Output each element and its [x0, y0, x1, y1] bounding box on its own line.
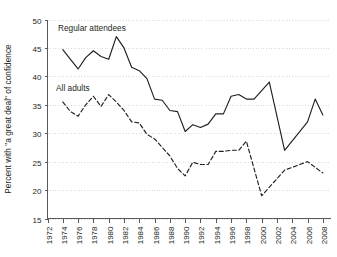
- y-tick-label: 20: [33, 187, 42, 196]
- x-tick-label: 1972: [45, 226, 54, 244]
- x-tick-label: 2004: [289, 226, 298, 244]
- series-line-regular-attendees: [63, 37, 323, 151]
- chart-container: 1520253035404550 19721974197619781980198…: [0, 0, 337, 257]
- y-tick-label: 25: [33, 159, 42, 168]
- y-axis-tick-labels: 1520253035404550: [33, 17, 42, 225]
- x-tick-label: 1988: [167, 226, 176, 244]
- y-tick-label: 45: [33, 45, 42, 54]
- x-tick-label: 1998: [243, 226, 252, 244]
- x-tick-label: 2002: [274, 226, 283, 244]
- series-label-all-adults: All adults: [56, 83, 90, 93]
- gridlines: [48, 21, 331, 220]
- x-tick-label: 1996: [228, 226, 237, 244]
- y-tick-label: 35: [33, 102, 42, 111]
- x-tick-label: 1992: [197, 226, 206, 244]
- x-tick-label: 1986: [152, 226, 161, 244]
- series-label-regular-attendees: Regular attendees: [58, 23, 126, 33]
- x-tick-label: 1974: [60, 226, 69, 244]
- x-tick-label: 1990: [182, 226, 191, 244]
- x-tick-label: 1982: [121, 226, 130, 244]
- y-tick-label: 40: [33, 73, 42, 82]
- line-chart: 1520253035404550 19721974197619781980198…: [0, 0, 337, 257]
- x-tick-label: 2000: [259, 226, 268, 244]
- y-axis-title: Percent with "a great deal" of confidenc…: [3, 44, 13, 194]
- x-tick-label: 1984: [136, 226, 145, 244]
- data-series: [63, 37, 323, 196]
- x-tick-label: 1994: [213, 226, 222, 244]
- x-tick-label: 1980: [106, 226, 115, 244]
- x-tick-label: 1976: [75, 226, 84, 244]
- y-tick-label: 15: [33, 216, 42, 225]
- y-tick-label: 50: [33, 17, 42, 26]
- x-tick-label: 1978: [90, 226, 99, 244]
- x-axis-tick-labels: 1972197419761978198019821984198619881990…: [45, 226, 329, 244]
- x-tick-label: 2008: [320, 226, 329, 244]
- x-tick-label: 2006: [305, 226, 314, 244]
- y-tick-label: 30: [33, 130, 42, 139]
